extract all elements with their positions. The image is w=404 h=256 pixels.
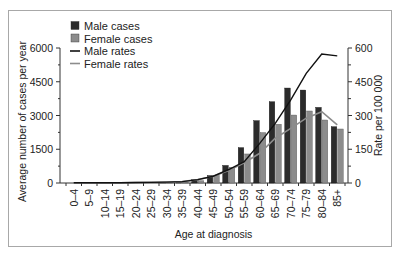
female-cases-bar bbox=[183, 182, 189, 183]
male-rates-line bbox=[74, 54, 338, 183]
x-tick-label: 85+ bbox=[331, 189, 343, 207]
legend-label: Male cases bbox=[84, 20, 140, 32]
x-axis-title: Age at diagnosis bbox=[175, 228, 253, 240]
chart-svg: 0150030004500600001503004506000–45–910–1… bbox=[0, 0, 404, 256]
right-tick-label: 300 bbox=[355, 110, 373, 122]
male-cases-bar bbox=[331, 127, 337, 183]
female-rates-line bbox=[74, 112, 338, 183]
legend: Male casesFemale casesMale ratesFemale r… bbox=[70, 20, 153, 70]
left-tick-label: 4500 bbox=[30, 76, 54, 88]
x-tick-label: 70–74 bbox=[285, 189, 297, 218]
x-tick-label: 40–44 bbox=[192, 189, 204, 218]
female-cases-bar bbox=[276, 124, 282, 183]
female-cases-bar bbox=[338, 129, 344, 183]
right-tick-label: 450 bbox=[355, 76, 373, 88]
legend-label: Female cases bbox=[84, 33, 153, 45]
female-cases-bar bbox=[198, 181, 204, 183]
female-cases-bar bbox=[307, 111, 313, 183]
x-tick-label: 15–19 bbox=[114, 189, 126, 218]
right-axis-title: Rate per 100 000 bbox=[372, 75, 384, 156]
right-tick-label: 0 bbox=[355, 177, 361, 189]
male-cases-bar bbox=[316, 107, 322, 183]
x-tick-label: 60–64 bbox=[254, 189, 266, 218]
x-tick-label: 45–49 bbox=[207, 189, 219, 218]
right-tick-label: 600 bbox=[355, 42, 373, 54]
left-tick-label: 3000 bbox=[30, 110, 54, 122]
x-tick-label: 55–59 bbox=[238, 189, 250, 218]
male-cases-bar bbox=[223, 165, 229, 183]
x-tick-label: 5–9 bbox=[83, 189, 95, 207]
x-tick-label: 30–34 bbox=[161, 189, 173, 218]
x-tick-label: 20–24 bbox=[130, 189, 142, 218]
x-tick-label: 0–4 bbox=[68, 189, 80, 207]
x-tick-label: 25–29 bbox=[145, 189, 157, 218]
left-axis-title: Average number of cases per year bbox=[16, 41, 28, 202]
male-cases-bar bbox=[254, 121, 260, 183]
x-tick-label: 35–39 bbox=[176, 189, 188, 218]
x-tick-label: 50–54 bbox=[223, 189, 235, 218]
legend-label: Male rates bbox=[84, 45, 136, 57]
x-tick-label: 10–14 bbox=[99, 189, 111, 218]
x-tick-label: 75–79 bbox=[300, 189, 312, 218]
left-tick-label: 0 bbox=[47, 177, 53, 189]
x-tick-label: 65–69 bbox=[269, 189, 281, 218]
male-cases-legend-swatch bbox=[71, 22, 79, 30]
female-cases-legend-swatch bbox=[71, 34, 79, 42]
left-tick-label: 1500 bbox=[30, 143, 54, 155]
right-tick-label: 150 bbox=[355, 143, 373, 155]
legend-label: Female rates bbox=[84, 58, 149, 70]
male-cases-bar bbox=[300, 90, 306, 183]
x-tick-label: 80–84 bbox=[316, 189, 328, 218]
female-cases-bar bbox=[322, 120, 328, 183]
left-tick-label: 6000 bbox=[30, 42, 54, 54]
